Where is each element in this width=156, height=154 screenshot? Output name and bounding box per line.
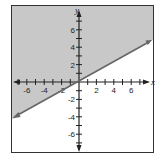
- y-tick-label: 6: [71, 26, 76, 35]
- y-tick-label: -6: [68, 130, 76, 139]
- x-tick-label: -4: [41, 86, 49, 95]
- x-tick-label: -6: [23, 86, 31, 95]
- y-tick-label: 2: [71, 61, 76, 70]
- x-tick-label: 2: [94, 86, 99, 95]
- x-axis-label: x: [150, 77, 155, 87]
- x-tick-label: 4: [112, 86, 117, 95]
- x-tick-label: 6: [129, 86, 134, 95]
- coordinate-plane: x y -6-4-2246 -6-4-2246: [0, 0, 156, 154]
- y-tick-label: -2: [68, 95, 76, 104]
- y-tick-label: -4: [68, 113, 76, 122]
- y-tick-label: 4: [71, 43, 76, 52]
- y-axis-label: y: [74, 5, 79, 15]
